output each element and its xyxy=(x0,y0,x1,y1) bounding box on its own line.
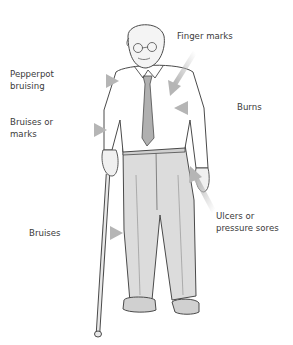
arrow-bruises-or-marks xyxy=(56,123,107,137)
label-bruises: Bruises xyxy=(29,228,61,240)
elderly-man-figure xyxy=(0,0,293,345)
illustration: Finger marks Pepperpot bruising Burns Br… xyxy=(0,0,293,345)
label-ulcers-or-pressure-sores: Ulcers or pressure sores xyxy=(216,211,279,234)
walking-cane xyxy=(95,174,109,337)
shoes xyxy=(123,297,199,314)
head xyxy=(127,25,164,68)
trousers xyxy=(123,145,196,302)
label-finger-marks: Finger marks xyxy=(177,31,233,43)
arrow-bruises xyxy=(70,226,123,240)
label-bruises-or-marks: Bruises or marks xyxy=(10,117,53,140)
label-pepperpot-bruising: Pepperpot bruising xyxy=(10,69,54,92)
label-burns: Burns xyxy=(237,102,262,114)
